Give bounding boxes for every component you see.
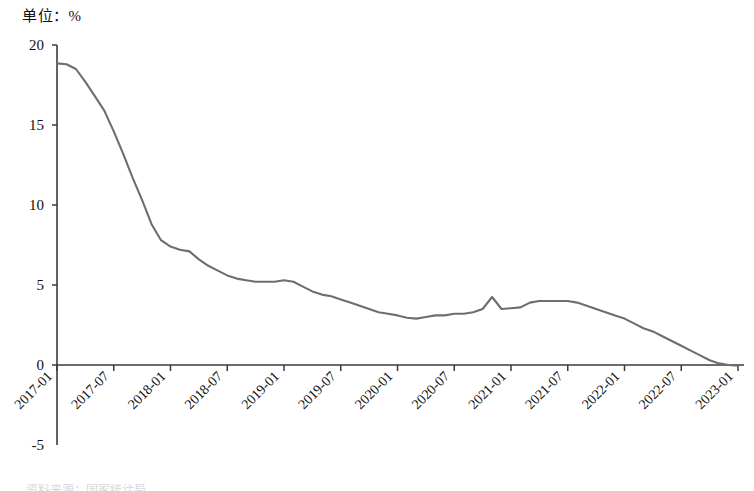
- x-axis-tick-label: 2017-07: [68, 369, 112, 413]
- y-axis-tick-label: -5: [32, 437, 45, 453]
- x-axis-tick-label: 2022-01: [579, 369, 623, 413]
- x-axis-tick-label: 2019-01: [239, 369, 283, 413]
- y-axis-tick-label: 15: [29, 117, 44, 133]
- data-series-line: [57, 63, 738, 365]
- chart-container: 单位：% 20151050-5 2017-012017-072018-01201…: [0, 0, 754, 491]
- x-axis-tick-label: 2023-01: [693, 369, 737, 413]
- x-axis-tick-label: 2020-07: [409, 369, 453, 413]
- x-axis-tick-label: 2022-07: [636, 369, 680, 413]
- source-note: 资料来源：国家统计局: [26, 484, 146, 491]
- line-chart-plot: 20151050-5 2017-012017-072018-012018-072…: [0, 0, 754, 491]
- y-axis-tick-label: 5: [37, 277, 45, 293]
- y-axis-tick-label: 10: [29, 197, 44, 213]
- x-axis-tick-label: 2017-01: [12, 369, 56, 413]
- x-axis-tick-label: 2018-01: [125, 369, 169, 413]
- x-axis-tick-labels: 2017-012017-072018-012018-072019-012019-…: [12, 369, 737, 413]
- x-axis-tick-label: 2019-07: [295, 369, 339, 413]
- x-axis-tick-label: 2021-01: [466, 369, 510, 413]
- y-axis-tick-label: 20: [29, 37, 44, 53]
- x-axis-tick-label: 2021-07: [522, 369, 566, 413]
- x-axis-tick-label: 2020-01: [352, 369, 396, 413]
- x-axis-tick-label: 2018-07: [182, 369, 226, 413]
